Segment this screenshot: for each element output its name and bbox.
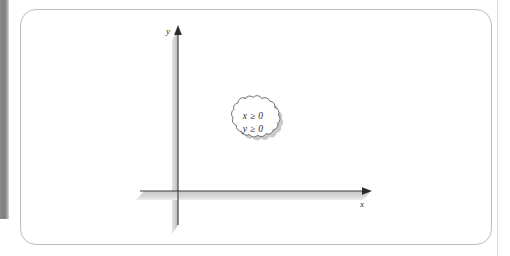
y-axis-arrowhead: [174, 25, 182, 35]
constraint-line-x: x ≥ 0: [223, 110, 283, 123]
page-gutter-strip: [0, 0, 9, 219]
y-axis-ribbon-lower: [172, 175, 178, 234]
plot-area: y x x ≥ 0 y ≥ 0: [20, 9, 492, 245]
y-axis-label: y: [166, 26, 170, 36]
figure-root: y x x ≥ 0 y ≥ 0: [0, 0, 510, 256]
page-edge-rule: [497, 0, 498, 256]
constraint-cloud-callout: x ≥ 0 y ≥ 0: [223, 93, 289, 155]
x-axis-ribbon: [136, 191, 371, 200]
constraint-line-y: y ≥ 0: [223, 123, 283, 136]
x-axis-label: x: [360, 199, 364, 209]
constraint-text: x ≥ 0 y ≥ 0: [223, 110, 283, 136]
